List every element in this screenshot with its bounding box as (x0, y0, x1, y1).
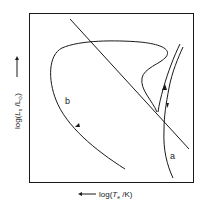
y-axis-arrow-icon (15, 56, 19, 60)
x-axis-label: log(Te /K) (99, 190, 133, 200)
curve-a-label: a (170, 151, 175, 161)
curve-b-arrow-icon (75, 123, 80, 127)
curve-b-label: b (65, 96, 70, 106)
plot-frame (30, 14, 194, 183)
y-axis-label: log(Ls /L⊙) (13, 93, 23, 129)
hr-diagram: b a log(Te /K) log(Ls /L⊙) (0, 0, 205, 209)
curve-a-upper-track (158, 44, 180, 112)
y-axis-label-group: log(Ls /L⊙) (13, 56, 23, 129)
x-axis-arrow-icon (78, 192, 82, 196)
diagonal-line (70, 19, 189, 149)
